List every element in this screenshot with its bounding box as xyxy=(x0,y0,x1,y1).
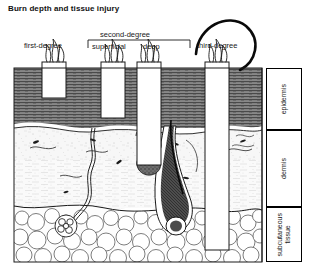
burn-column-third-degree xyxy=(205,62,229,250)
burn-column-first-degree xyxy=(42,62,66,98)
burn-depth-figure: Burn depth and tissue injury first-degre… xyxy=(0,0,309,272)
skin-cross-section-illustration xyxy=(0,0,309,272)
burn-column-deep-second-degree xyxy=(137,62,161,165)
flame-first-degree xyxy=(46,39,64,62)
flame-deep xyxy=(141,39,159,62)
flame-third-degree xyxy=(209,39,227,62)
bracket-second-degree xyxy=(88,40,190,48)
flame-superficial xyxy=(105,39,123,62)
sweat-gland xyxy=(55,215,77,237)
burn-column-superficial-second-degree xyxy=(101,62,125,118)
